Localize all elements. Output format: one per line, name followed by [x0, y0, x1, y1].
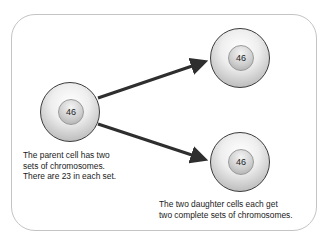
parent-chromosome-count: 46 [66, 107, 76, 117]
daughters-caption-line: The two daughter cells each get [159, 199, 293, 210]
daughter-top-chromosome-count: 46 [236, 53, 246, 63]
daughter-top-nucleus: 46 [228, 45, 254, 71]
parent-caption: The parent cell has two sets of chromoso… [23, 150, 116, 182]
daughter-bottom-nucleus: 46 [228, 149, 254, 175]
daughters-caption: The two daughter cells each get two comp… [159, 199, 293, 220]
arrow-to-top-daughter [98, 62, 204, 98]
parent-caption-line: The parent cell has two [23, 150, 116, 161]
parent-cell: 46 [40, 82, 100, 142]
daughter-cell-bottom: 46 [210, 132, 270, 192]
daughters-caption-line: two complete sets of chromosomes. [159, 210, 293, 221]
daughter-bottom-chromosome-count: 46 [236, 157, 246, 167]
daughter-cell-top: 46 [210, 28, 270, 88]
parent-caption-line: There are 23 in each set. [23, 171, 116, 182]
parent-nucleus: 46 [58, 99, 84, 125]
parent-caption-line: sets of chromosomes. [23, 161, 116, 172]
